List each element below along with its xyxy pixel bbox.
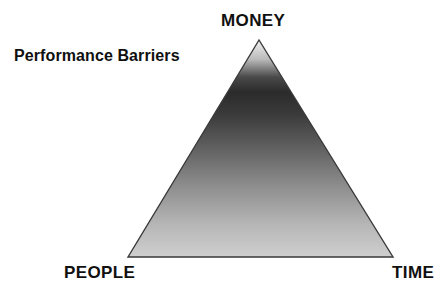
vertex-label-people: PEOPLE xyxy=(64,264,135,281)
diagram-canvas: Performance Barriers MONEY PEOPLE TIME xyxy=(0,0,448,296)
triangle-shape xyxy=(128,40,393,257)
performance-barriers-triangle xyxy=(0,0,448,296)
vertex-label-money: MONEY xyxy=(221,12,285,29)
vertex-label-time: TIME xyxy=(392,264,434,281)
diagram-caption: Performance Barriers xyxy=(14,48,180,64)
